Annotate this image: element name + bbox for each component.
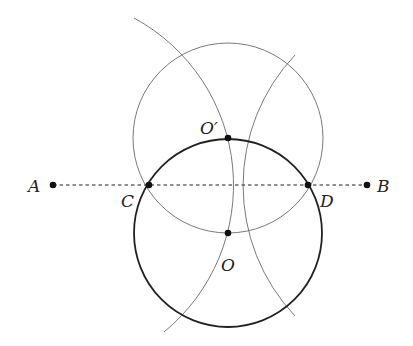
label-o: O (221, 255, 235, 275)
point-o (225, 230, 232, 237)
label-d: D (319, 191, 334, 211)
point-o-prime (225, 135, 232, 142)
construction-diagram: A B C D O O′ (0, 0, 413, 346)
point-b (364, 182, 371, 189)
point-a (50, 182, 57, 189)
label-a: A (26, 176, 40, 196)
label-o-prime: O′ (200, 118, 218, 138)
point-d (305, 182, 312, 189)
label-c: C (121, 191, 134, 211)
point-c (146, 182, 153, 189)
label-b: B (376, 176, 390, 196)
